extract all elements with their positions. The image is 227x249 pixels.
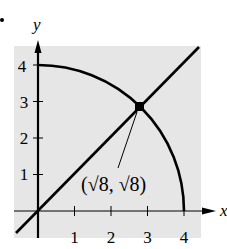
- x-tick-label: 3: [143, 228, 152, 247]
- chart-figure: 1 2 3 4 1 2 3 4 y x (√8, √8): [0, 0, 227, 249]
- y-tick-label: 1: [20, 165, 29, 184]
- y-axis-label: y: [31, 15, 41, 34]
- x-tick-label: 2: [107, 228, 116, 247]
- x-tick-label: 1: [70, 228, 79, 247]
- x-tick-label: 4: [180, 228, 189, 247]
- point-label: (√8, √8): [81, 173, 146, 196]
- intersection-point: [135, 102, 144, 111]
- x-axis-arrow-icon: [202, 208, 216, 215]
- y-tick-label: 4: [18, 57, 27, 76]
- y-tick-label: 3: [20, 93, 29, 112]
- x-axis-label: x: [219, 201, 227, 220]
- y-tick-label: 2: [20, 129, 29, 148]
